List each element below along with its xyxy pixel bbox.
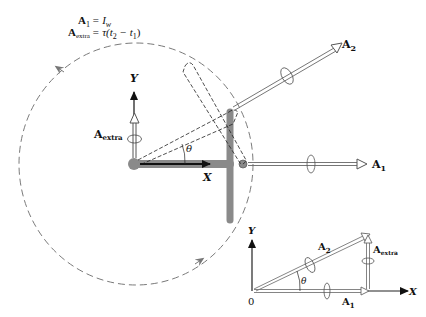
gyroscope-rod (128, 112, 247, 220)
vector-a-extra: Aextra (93, 113, 142, 158)
svg-text:Aextra: Aextra (93, 128, 123, 142)
svg-text:A1: A1 (371, 158, 386, 173)
svg-text:Aextra: Aextra (372, 244, 398, 256)
rotation-arrow-icon (128, 135, 142, 143)
svg-text:A2: A2 (341, 38, 356, 53)
y-axis-label: Y (130, 72, 139, 85)
rotation-arrow-icon (324, 283, 330, 299)
orbit-arrow-icon (195, 260, 201, 264)
svg-text:A2: A2 (317, 241, 331, 255)
angular-momentum-diagram: A1= Iw Aextra= τ(t2 − t1) X Y Aextra θ (0, 0, 426, 317)
svg-text:θ: θ (301, 276, 307, 286)
vector-a2: A2 (233, 38, 356, 110)
x-axis-label: X (202, 171, 212, 184)
svg-text:Y: Y (248, 225, 256, 236)
equations: A1= Iw Aextra= τ(t2 − t1) (68, 14, 141, 41)
svg-text:X: X (408, 286, 418, 297)
angle-label: θ (186, 143, 192, 154)
inset-vector-diagram: Y X 0 A1 A2 Aextra θ (248, 225, 418, 310)
inset-origin-label: 0 (248, 296, 254, 307)
equation-a-extra: Aextra= τ(t2 − t1) (68, 26, 141, 41)
rotation-arrow-icon (307, 155, 315, 173)
rotation-arrow-icon (362, 258, 374, 264)
svg-text:A1: A1 (341, 296, 355, 310)
vector-a1: A1 (248, 155, 386, 173)
